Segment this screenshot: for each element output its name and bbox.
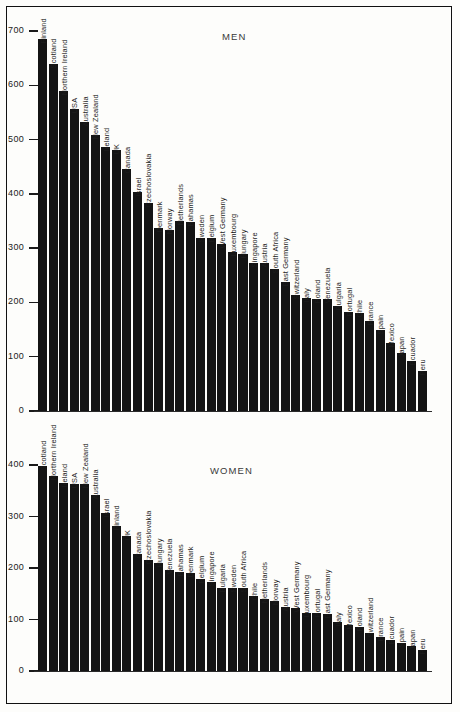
bar bbox=[365, 321, 374, 411]
bar bbox=[323, 614, 332, 671]
bar bbox=[59, 91, 68, 411]
bar bbox=[407, 361, 416, 411]
bar-label: Peru bbox=[419, 638, 426, 654]
bar-label: Venezuela bbox=[166, 539, 173, 575]
bar bbox=[270, 269, 279, 411]
bar bbox=[323, 299, 332, 411]
bar-label: Italy bbox=[303, 288, 310, 302]
bar-label: Ecuador bbox=[408, 337, 415, 366]
bar-label: Japan bbox=[408, 629, 415, 650]
bar-label: Finland bbox=[39, 18, 46, 43]
bar bbox=[175, 221, 184, 411]
y-axis-tick bbox=[29, 464, 38, 465]
bar bbox=[228, 588, 237, 671]
bar-label: Sweden bbox=[197, 215, 204, 243]
bar-label: Ecuador bbox=[387, 616, 394, 645]
bar bbox=[144, 203, 153, 411]
y-axis-tick bbox=[29, 139, 38, 140]
bar-label: Peru bbox=[419, 359, 426, 375]
bar-label: Bahamas bbox=[187, 194, 194, 226]
figure-page: MEN 0100200300400500600700FinlandScotlan… bbox=[0, 0, 460, 712]
bar-label: USA bbox=[71, 472, 78, 488]
bar bbox=[376, 330, 385, 411]
bar-label: France bbox=[377, 618, 384, 642]
x-axis-baseline bbox=[34, 411, 432, 412]
bar-label: East Germany bbox=[324, 570, 331, 619]
bar-label: Venezuela bbox=[324, 268, 331, 304]
bar bbox=[355, 313, 364, 411]
bar bbox=[186, 573, 195, 671]
bar-label: Portugal bbox=[313, 589, 320, 618]
bar bbox=[270, 601, 279, 671]
bar-label: Ireland bbox=[60, 463, 67, 487]
bar-label: Belgium bbox=[208, 215, 215, 243]
y-axis-tick-label: 300 bbox=[0, 242, 24, 252]
bar bbox=[355, 627, 364, 671]
bar bbox=[302, 613, 311, 671]
bar bbox=[386, 640, 395, 671]
bar bbox=[344, 625, 353, 671]
bar-label: Portugal bbox=[345, 287, 352, 316]
bar bbox=[49, 64, 58, 411]
y-axis-tick-label: 100 bbox=[0, 351, 24, 361]
bar-label: Finland bbox=[113, 505, 120, 530]
bar bbox=[333, 306, 342, 411]
bar-label: West Germany bbox=[219, 197, 226, 248]
bar-label: Bulgaria bbox=[219, 564, 226, 592]
y-axis-tick bbox=[29, 302, 38, 303]
bar bbox=[291, 608, 300, 671]
bar bbox=[186, 222, 195, 411]
y-axis-tick-label: 400 bbox=[0, 459, 24, 469]
y-axis-tick bbox=[29, 193, 38, 194]
bar-label: South Africa bbox=[271, 232, 278, 274]
bar bbox=[333, 622, 342, 671]
bar-label: Austria bbox=[282, 587, 289, 611]
figure-frame: MEN 0100200300400500600700FinlandScotlan… bbox=[6, 6, 452, 704]
bar bbox=[249, 263, 258, 411]
bar bbox=[376, 637, 385, 671]
bar-label: Denmark bbox=[187, 547, 194, 578]
y-axis-tick bbox=[29, 30, 38, 31]
bar-label: Hungary bbox=[155, 539, 162, 568]
bar bbox=[418, 371, 427, 411]
plot-area-women: 0100200300400ScotlandNorthern IrelandIre… bbox=[17, 437, 455, 705]
bar bbox=[312, 299, 321, 411]
bar-label: Chile bbox=[250, 583, 257, 601]
chart-women: WOMEN 0100200300400ScotlandNorthern Irel… bbox=[17, 437, 455, 705]
bar bbox=[80, 484, 89, 671]
bar-label: France bbox=[366, 301, 373, 325]
bar bbox=[260, 599, 269, 671]
bar-label: Bulgaria bbox=[335, 282, 342, 310]
y-axis-tick-label: 700 bbox=[0, 25, 24, 35]
bar bbox=[302, 298, 311, 411]
bar-label: UK bbox=[124, 530, 131, 541]
bar bbox=[165, 230, 174, 411]
bar bbox=[49, 476, 58, 671]
bar bbox=[112, 150, 121, 411]
x-axis-baseline bbox=[34, 671, 432, 672]
bar-label: Netherlands bbox=[176, 184, 183, 226]
bar-label: Czechoslovakia bbox=[145, 510, 152, 564]
bar bbox=[207, 238, 216, 411]
bar bbox=[70, 109, 79, 411]
bar bbox=[101, 147, 110, 411]
bar-label: Switzerland bbox=[292, 260, 299, 300]
bar bbox=[154, 228, 163, 411]
bar bbox=[101, 513, 110, 671]
bar-label: Singapore bbox=[250, 233, 257, 268]
bar-label: Denmark bbox=[155, 201, 162, 232]
bar-label: Australia bbox=[81, 96, 88, 126]
bar bbox=[154, 563, 163, 671]
y-axis-tick-label: 400 bbox=[0, 188, 24, 198]
bar bbox=[144, 560, 153, 671]
bar bbox=[249, 596, 258, 671]
y-axis-tick-label: 500 bbox=[0, 134, 24, 144]
bar-label: Switzerland bbox=[366, 598, 373, 638]
bar-label: Australia bbox=[92, 469, 99, 499]
bar-label: Northern Ireland bbox=[50, 425, 57, 481]
bar-label: Bahamas bbox=[176, 544, 183, 576]
bar bbox=[312, 613, 321, 671]
bar-label: Mexico bbox=[345, 605, 352, 629]
bar-label: Singapore bbox=[208, 551, 215, 586]
bar-label: Mexico bbox=[387, 323, 394, 347]
